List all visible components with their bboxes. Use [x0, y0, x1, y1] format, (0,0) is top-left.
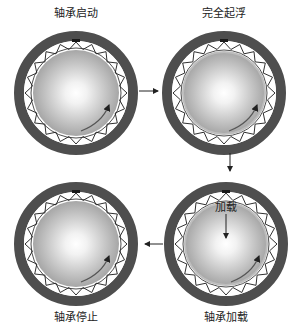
bearing-start: [19, 36, 133, 150]
bearing-process-diagram: [0, 0, 299, 328]
stage-label-load: 轴承加载: [186, 308, 266, 324]
bearing-float: [167, 36, 281, 150]
stage-label-float: 完全起浮: [184, 4, 264, 20]
load-inner-label: 加载: [186, 198, 266, 214]
shaft: [33, 201, 119, 287]
shaft: [33, 50, 119, 136]
stage-label-start: 轴承启动: [36, 4, 116, 20]
bearing-stop: [19, 187, 133, 301]
stage-label-stop: 轴承停止: [36, 308, 116, 324]
